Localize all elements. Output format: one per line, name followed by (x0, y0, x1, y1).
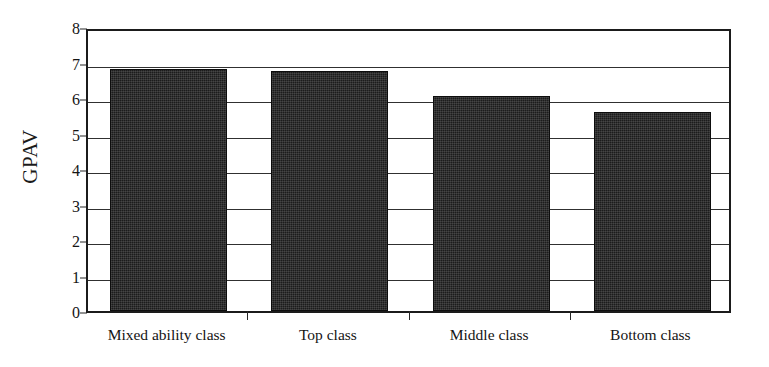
gridline (88, 67, 729, 68)
y-axis-tick-labels: 876543210 (56, 29, 80, 313)
y-axis-tick-label: 1 (72, 270, 80, 286)
y-axis-tick-label: 3 (72, 199, 80, 215)
plot-area (86, 29, 731, 313)
x-axis-tick-mark (247, 311, 248, 320)
x-axis-tick-label: Middle class (450, 325, 529, 345)
bar (271, 71, 388, 311)
x-axis-tick-label: Mixed ability class (108, 325, 226, 345)
x-axis-tick-mark (409, 311, 410, 320)
y-axis-tick-label: 8 (72, 21, 80, 37)
bar (433, 96, 550, 311)
x-axis-tick-labels: Mixed ability classTop classMiddle class… (86, 325, 731, 351)
y-axis-title-label: GPAV (17, 129, 42, 184)
x-axis-tick-label: Bottom class (610, 325, 691, 345)
y-axis-tick-label: 2 (72, 234, 80, 250)
y-axis-tick-label: 6 (72, 92, 80, 108)
x-axis-tick-label: Top class (299, 325, 357, 345)
y-axis-tick-label: 0 (72, 305, 80, 321)
y-axis-tick-label: 4 (72, 163, 80, 179)
x-axis-tick-mark (570, 311, 571, 320)
bar-chart-figure: GPAV 876543210 Mixed ability classTop cl… (0, 0, 769, 367)
y-axis-tick-label: 7 (72, 57, 80, 73)
bar (594, 112, 711, 311)
plot-inner (88, 31, 729, 311)
y-axis-tick-label: 5 (72, 128, 80, 144)
bar (110, 69, 227, 311)
y-axis-title: GPAV (0, 0, 60, 313)
x-axis-tick-marks (86, 311, 731, 320)
